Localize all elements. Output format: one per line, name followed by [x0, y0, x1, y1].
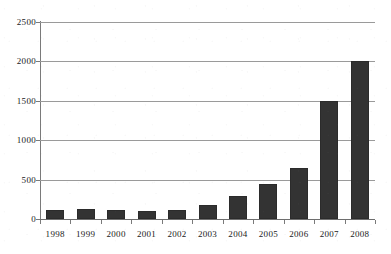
- bar-2007: [320, 101, 338, 219]
- bar-chart: 05001000150020002500 1998199920002001200…: [0, 0, 391, 254]
- bar-2002: [168, 210, 186, 219]
- x-tick-0: [40, 220, 41, 224]
- bar-2008: [351, 61, 369, 219]
- x-tick-8: [284, 220, 285, 224]
- x-tick-9: [314, 220, 315, 224]
- bar-2000: [107, 210, 125, 219]
- bar-2004: [229, 196, 247, 219]
- bar-2003: [199, 205, 217, 219]
- x-tick-label-2008: 2008: [340, 229, 380, 239]
- x-tick-1: [70, 220, 71, 224]
- y-tick-label: 500: [0, 176, 36, 185]
- x-tick-10: [345, 220, 346, 224]
- y-tick-label: 1500: [0, 97, 36, 106]
- y-tick-label: 1000: [0, 136, 36, 145]
- y-tick-label: 2000: [0, 57, 36, 66]
- y-tick-label: 0: [0, 215, 36, 224]
- x-tick-6: [223, 220, 224, 224]
- bar-2006: [290, 168, 308, 219]
- x-tick-7: [253, 220, 254, 224]
- bar-1999: [77, 209, 95, 219]
- x-tick-2: [101, 220, 102, 224]
- bar-2005: [259, 184, 277, 219]
- bar-1998: [46, 210, 64, 219]
- y-tick-label: 2500: [0, 18, 36, 27]
- gridline-0: [40, 219, 375, 220]
- x-tick-5: [192, 220, 193, 224]
- bar-2001: [138, 211, 156, 219]
- x-tick-4: [162, 220, 163, 224]
- plot-area: [40, 22, 375, 219]
- x-tick-end: [375, 220, 376, 224]
- x-tick-3: [131, 220, 132, 224]
